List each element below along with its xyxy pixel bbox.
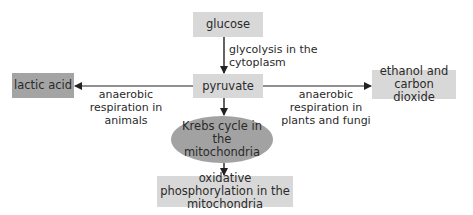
edge-label-anaerobic-plants: anaerobic respiration in plants and fung…: [276, 88, 376, 127]
node-oxidative-phosphorylation: oxidative phosphorylation in the mitocho…: [157, 176, 293, 207]
node-krebs-cycle: Krebs cycle in the mitochondria: [171, 116, 273, 163]
node-lactic-acid-label: lactic acid: [14, 79, 72, 92]
node-pyruvate: pyruvate: [193, 74, 263, 98]
node-pyruvate-label: pyruvate: [202, 80, 254, 93]
node-glucose-label: glucose: [206, 18, 250, 31]
node-krebs-cycle-label: Krebs cycle in the mitochondria: [177, 120, 267, 159]
edge-label-glycolysis: glycolysis in the cytoplasm: [229, 43, 319, 69]
node-glucose: glucose: [193, 12, 263, 37]
edge-label-anaerobic-animals: anaerobic respiration in animals: [86, 88, 166, 127]
node-ethanol: ethanol and carbon dioxide: [372, 70, 456, 99]
node-oxidative-phosphorylation-label: oxidative phosphorylation in the mitocho…: [160, 172, 290, 211]
node-ethanol-label: ethanol and carbon dioxide: [372, 65, 456, 104]
node-lactic-acid: lactic acid: [12, 73, 74, 98]
